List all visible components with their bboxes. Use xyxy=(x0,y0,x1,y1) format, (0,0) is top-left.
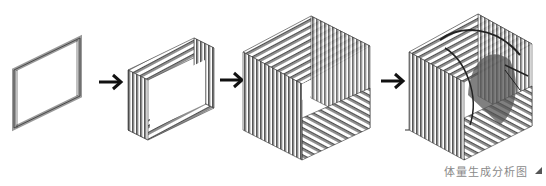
arrow-icon xyxy=(381,74,403,88)
stage-4-cube-curved-interior xyxy=(405,14,532,160)
stage-2-layered-frames xyxy=(128,38,214,140)
stage-3-slatted-cube xyxy=(243,16,370,160)
stage-1-single-frame xyxy=(14,38,80,128)
massing-diagram xyxy=(0,0,546,186)
corner-triangle-icon xyxy=(535,167,542,174)
diagram-caption: 体量生成分析图 xyxy=(444,163,528,179)
arrow-icon xyxy=(99,75,121,89)
arrow-icon xyxy=(220,73,242,87)
